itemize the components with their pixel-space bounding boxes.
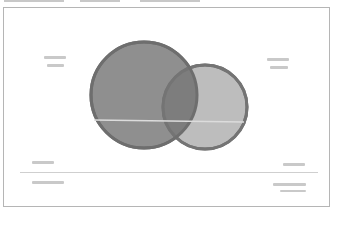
- label-bottom-right-2: [273, 183, 306, 186]
- label-top-left-1: [44, 56, 66, 59]
- label-bottom-right-1: [283, 163, 305, 166]
- label-bottom-left-2: [32, 181, 64, 184]
- label-top-left-2: [47, 64, 64, 67]
- label-top-right-2: [270, 66, 288, 69]
- divider-line: [20, 172, 318, 173]
- label-bottom-left-1: [32, 161, 54, 164]
- label-top-right-1: [267, 58, 289, 61]
- label-bottom-right-3: [280, 190, 306, 192]
